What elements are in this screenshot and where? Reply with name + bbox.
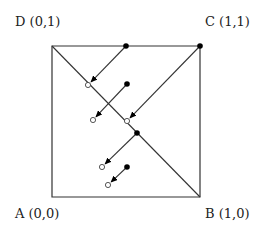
vertex-label-a: A (0,0) [15, 207, 59, 220]
filled-point-4 [134, 130, 140, 136]
filled-point-5 [124, 164, 130, 170]
filled-point-2 [123, 43, 129, 49]
diagram-canvas: D (0,1) C (1,1) A (0,0) B (1,0) [0, 0, 263, 238]
unit-square-diagram [0, 0, 263, 238]
open-point-3 [90, 117, 95, 122]
vertex-label-b: B (1,0) [205, 207, 250, 220]
vertex-label-d: D (0,1) [15, 15, 60, 28]
open-point-5 [105, 182, 110, 187]
arrow-3 [96, 84, 127, 117]
open-point-4 [99, 164, 104, 169]
open-point-1 [124, 118, 129, 123]
open-point-2 [85, 82, 90, 87]
arrow-1 [130, 46, 200, 118]
arrow-4 [105, 133, 137, 164]
vertex-label-c: C (1,1) [205, 15, 250, 28]
filled-point-1 [197, 43, 203, 49]
arrow-2 [91, 46, 126, 82]
points [85, 43, 202, 187]
arrows [91, 46, 200, 182]
arrow-5 [111, 167, 127, 182]
filled-point-3 [124, 81, 130, 87]
